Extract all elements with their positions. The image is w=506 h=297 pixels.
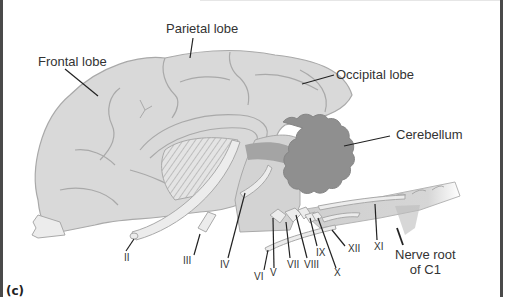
label-nerve-vi: VI — [254, 272, 263, 282]
panel-label: (c) — [6, 284, 24, 297]
label-nerve-x: X — [334, 268, 341, 278]
leader-vi — [264, 250, 268, 270]
leader-c1 — [397, 228, 403, 245]
label-nerve-ii: II — [124, 253, 130, 263]
leader-ii — [126, 239, 134, 251]
label-nerve-xii: XII — [348, 244, 360, 254]
label-nerve-viii: VIII — [304, 260, 319, 270]
leader-iii — [194, 234, 200, 255]
label-nerve-iii: III — [183, 256, 191, 266]
label-parietal-lobe: Parietal lobe — [166, 22, 238, 35]
leader-xii — [332, 230, 345, 246]
label-nerve-v: V — [270, 268, 277, 278]
label-cerebellum: Cerebellum — [396, 128, 462, 141]
figure-frame: Frontal lobe Parietal lobe Occipital lob… — [0, 0, 506, 297]
nerve-iii — [198, 212, 216, 232]
label-frontal-lobe: Frontal lobe — [38, 55, 107, 68]
label-nerve-iv: IV — [220, 260, 229, 270]
label-nerve-xi: XI — [374, 242, 383, 252]
label-nerve-root-c1: Nerve root of C1 — [395, 247, 456, 277]
label-nerve-vii: VII — [287, 260, 299, 270]
label-nerve-ix: IX — [316, 248, 325, 258]
label-occipital-lobe: Occipital lobe — [336, 68, 414, 81]
cerebellum — [283, 114, 354, 193]
